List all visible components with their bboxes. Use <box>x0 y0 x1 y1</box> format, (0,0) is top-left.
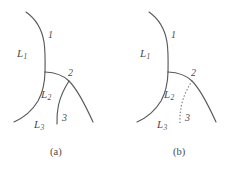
segment-label-1: 1 <box>48 30 53 40</box>
panel-a: L1 L2 L3 1 2 3 (a) <box>0 0 123 172</box>
segment-label-3: 3 <box>185 113 190 123</box>
curve-branch-2 <box>168 72 216 122</box>
curve-trunk-upper <box>149 12 168 72</box>
region-label-L1: L1 <box>17 48 27 59</box>
region-label-L3: L3 <box>157 119 167 130</box>
region-label-L2: L2 <box>164 89 174 100</box>
segment-label-1: 1 <box>171 30 176 40</box>
panel-caption-b: (b) <box>173 147 185 158</box>
curve-trunk-upper <box>26 12 45 72</box>
segment-label-3: 3 <box>62 113 67 123</box>
region-label-L2: L2 <box>41 89 51 100</box>
region-label-L1: L1 <box>140 48 150 59</box>
segment-label-2: 2 <box>68 68 73 78</box>
panel-caption-a: (a) <box>50 147 62 158</box>
figure-root: L1 L2 L3 1 2 3 (a) L1 L2 L3 1 <box>0 0 246 172</box>
curve-branch-2 <box>45 72 93 122</box>
region-label-L3: L3 <box>34 119 44 130</box>
panel-b: L1 L2 L3 1 2 3 (b) <box>123 0 246 172</box>
segment-label-2: 2 <box>191 68 196 78</box>
